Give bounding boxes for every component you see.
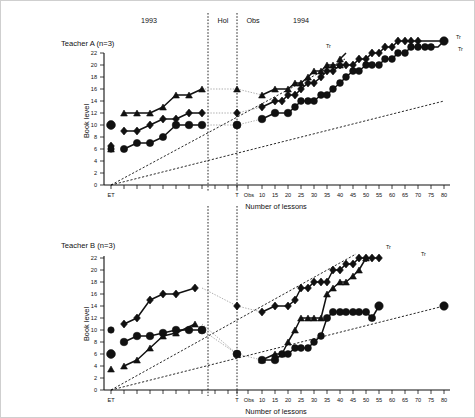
svg-text:10: 10	[259, 397, 265, 403]
svg-text:20: 20	[91, 62, 97, 68]
svg-text:70: 70	[415, 192, 421, 198]
svg-text:80: 80	[441, 397, 447, 403]
period-label-1993: 1993	[141, 16, 157, 25]
svg-text:16: 16	[91, 86, 97, 92]
markers-diamond-b	[121, 254, 383, 328]
svg-text:65: 65	[402, 192, 408, 198]
end-label-tr-a3: Tr	[458, 46, 463, 52]
svg-text:2: 2	[94, 170, 97, 176]
svg-text:Obs: Obs	[244, 192, 254, 198]
svg-text:10: 10	[259, 192, 265, 198]
svg-text:20: 20	[285, 192, 291, 198]
teacher-b-svg: Teacher B (n=3) 0 2 4 6 8 10 12 14 16 18…	[1, 206, 475, 418]
svg-text:15: 15	[272, 192, 278, 198]
svg-text:12: 12	[91, 315, 97, 321]
teacher-a-svg: 1993 Hol Obs 1994 Teacher A (n=3) 0 2 4 …	[1, 1, 475, 211]
svg-text:22: 22	[91, 255, 97, 261]
svg-text:22: 22	[91, 50, 97, 56]
bridge-diamond-b	[202, 288, 237, 306]
svg-text:6: 6	[94, 351, 97, 357]
svg-text:T: T	[235, 192, 239, 198]
svg-text:14: 14	[91, 98, 97, 104]
bridge-triangle-b	[202, 324, 237, 354]
svg-text:45: 45	[350, 192, 356, 198]
period-label-obs: Obs	[246, 16, 260, 25]
markers-circle-a	[107, 37, 449, 153]
svg-text:20: 20	[91, 267, 97, 273]
svg-text:30: 30	[311, 397, 317, 403]
svg-text:ET: ET	[107, 192, 115, 198]
svg-text:16: 16	[91, 291, 97, 297]
svg-text:18: 18	[91, 74, 97, 80]
svg-text:60: 60	[389, 192, 395, 198]
svg-text:4: 4	[94, 363, 97, 369]
svg-text:35: 35	[324, 192, 330, 198]
bridge-circle-b	[202, 330, 237, 354]
svg-text:50: 50	[363, 397, 369, 403]
svg-text:10: 10	[91, 122, 97, 128]
svg-text:10: 10	[91, 327, 97, 333]
trend-lower-b	[111, 306, 444, 390]
svg-text:25: 25	[298, 397, 304, 403]
svg-text:ET: ET	[107, 397, 115, 403]
svg-text:75: 75	[428, 397, 434, 403]
y-axis-title-a: Book level	[82, 104, 91, 138]
svg-text:30: 30	[311, 192, 317, 198]
end-label-tr-b2: Tr	[421, 251, 426, 257]
chart-panel-teacher-b: Teacher B (n=3) 0 2 4 6 8 10 12 14 16 18…	[1, 206, 475, 418]
svg-text:18: 18	[91, 279, 97, 285]
y-axis-title-b: Book level	[82, 307, 91, 341]
svg-text:T: T	[235, 397, 239, 403]
chart-panel-teacher-a: 1993 Hol Obs 1994 Teacher A (n=3) 0 2 4 …	[1, 1, 475, 211]
panel-title-teacher-a: Teacher A (n=3)	[61, 39, 115, 48]
svg-text:20: 20	[285, 397, 291, 403]
y-ticks-a: 0 2 4 6 8 10 12 14 16 18 20 22	[91, 50, 104, 188]
x-ticks-b: ET T Obs 10 15 20	[107, 390, 447, 403]
svg-text:65: 65	[402, 397, 408, 403]
bridge-triangle-a2	[237, 89, 262, 95]
bridge-diamond-b2	[237, 306, 262, 312]
end-label-tr-b1: Tr	[386, 244, 391, 250]
svg-text:2: 2	[94, 375, 97, 381]
svg-text:Obs: Obs	[244, 397, 254, 403]
end-label-tr-a2: Tr	[456, 34, 461, 40]
series-circle-a-post	[262, 41, 444, 119]
period-label-hol: Hol	[218, 16, 229, 25]
svg-text:6: 6	[94, 146, 97, 152]
svg-text:70: 70	[415, 397, 421, 403]
svg-text:55: 55	[376, 397, 382, 403]
svg-text:40: 40	[337, 192, 343, 198]
svg-text:8: 8	[94, 134, 97, 140]
svg-text:14: 14	[91, 303, 97, 309]
svg-text:4: 4	[94, 158, 97, 164]
period-label-1994: 1994	[293, 16, 309, 25]
svg-text:60: 60	[389, 397, 395, 403]
svg-text:75: 75	[428, 192, 434, 198]
svg-text:25: 25	[298, 192, 304, 198]
svg-text:8: 8	[94, 339, 97, 345]
svg-text:12: 12	[91, 110, 97, 116]
figure-container: 1993 Hol Obs 1994 Teacher A (n=3) 0 2 4 …	[0, 0, 475, 418]
end-label-tr-a1: Tr	[326, 43, 331, 49]
trend-upper-b	[111, 254, 356, 390]
svg-text:0: 0	[94, 387, 97, 393]
x-axis-title-b: Number of lessons	[245, 407, 307, 416]
x-ticks-a: ET T Obs 10 15 20	[107, 185, 447, 198]
svg-text:80: 80	[441, 192, 447, 198]
y-ticks-b: 0 2 4 6 8 10 12 14 16 18 20 22	[91, 255, 104, 393]
svg-text:50: 50	[363, 192, 369, 198]
svg-text:55: 55	[376, 192, 382, 198]
svg-text:45: 45	[350, 397, 356, 403]
svg-text:40: 40	[337, 397, 343, 403]
svg-text:0: 0	[94, 182, 97, 188]
svg-text:15: 15	[272, 397, 278, 403]
svg-text:35: 35	[324, 397, 330, 403]
panel-title-teacher-b: Teacher B (n=3)	[61, 241, 116, 250]
